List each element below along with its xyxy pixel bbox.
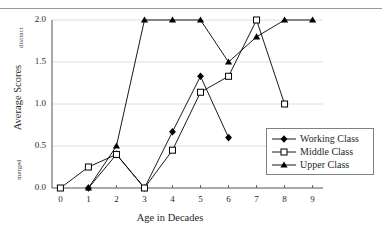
data-point-marker [281, 149, 287, 155]
chart-figure: Average Scores Age in Decades distinct m… [0, 0, 382, 234]
y-tick-label: 0.5 [20, 140, 46, 150]
x-tick-label: 8 [277, 194, 293, 204]
data-point-marker [253, 33, 260, 39]
data-point-marker [169, 16, 176, 22]
legend-row: Middle Class [271, 145, 368, 158]
x-tick-label: 9 [305, 194, 321, 204]
y-tick-label: 2.0 [20, 14, 46, 24]
data-point-marker [113, 151, 119, 157]
legend-row: Working Class [271, 132, 368, 145]
data-point-marker [280, 161, 287, 167]
x-tick-label: 6 [221, 194, 237, 204]
data-point-marker [141, 185, 147, 191]
legend-marker-open-square-icon [271, 146, 297, 158]
data-point-marker [169, 147, 175, 153]
x-tick-label: 5 [193, 194, 209, 204]
y-tick-label: 1.0 [20, 98, 46, 108]
data-point-marker [282, 101, 288, 107]
data-point-marker [113, 142, 120, 148]
data-point-marker [254, 17, 260, 23]
series-line [88, 76, 228, 188]
legend-label: Working Class [297, 133, 359, 144]
x-tick-label: 2 [108, 194, 124, 204]
x-tick-label: 3 [136, 194, 152, 204]
legend-label: Middle Class [297, 146, 353, 157]
legend-row: Upper Class [271, 158, 368, 171]
y-tick-label: 1.5 [20, 56, 46, 66]
x-axis-title: Age in Decades [0, 212, 340, 223]
data-point-marker [57, 185, 63, 191]
data-point-marker [281, 16, 288, 22]
data-point-marker [225, 134, 232, 142]
data-point-marker [141, 16, 148, 22]
data-point-marker [85, 164, 91, 170]
data-point-marker [197, 16, 204, 22]
x-tick-label: 7 [249, 194, 265, 204]
data-point-marker [226, 73, 232, 79]
chart-legend: Working ClassMiddle ClassUpper Class [266, 128, 374, 175]
y-tick-label: 0.0 [20, 182, 46, 192]
legend-marker-filled-diamond-icon [271, 133, 297, 145]
legend-label: Upper Class [297, 159, 349, 170]
data-point-marker [169, 128, 176, 136]
data-point-marker [309, 16, 316, 22]
x-tick-label: 4 [164, 194, 180, 204]
data-point-marker [197, 72, 204, 80]
data-point-marker [281, 135, 288, 143]
x-tick-label: 1 [80, 194, 96, 204]
data-point-marker [198, 89, 204, 95]
x-tick-label: 0 [52, 194, 68, 204]
legend-marker-filled-triangle-icon [271, 159, 297, 171]
